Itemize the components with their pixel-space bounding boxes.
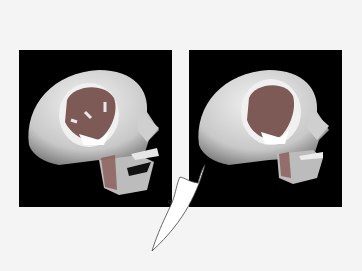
callout-pointer — [0, 0, 362, 271]
